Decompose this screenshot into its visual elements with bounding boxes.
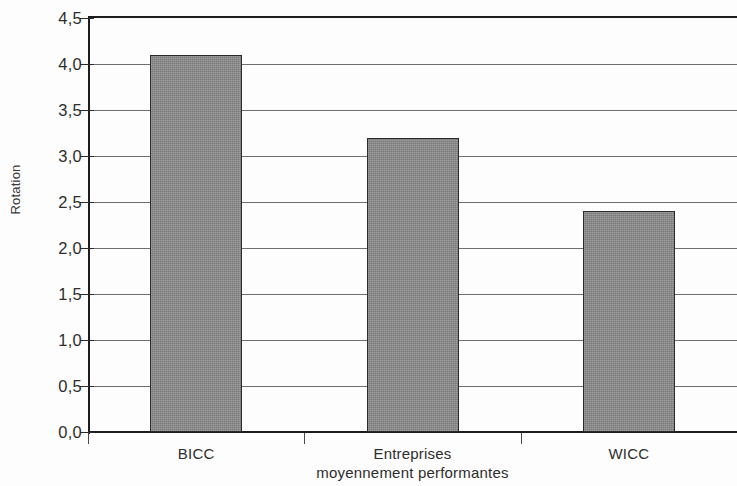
y-axis-tick-mark	[80, 156, 94, 157]
y-axis-tick-mark	[80, 294, 94, 295]
y-axis-tick-mark	[80, 64, 94, 65]
x-axis-origin-tick	[88, 433, 89, 444]
y-axis-tick-labels: 0,00,51,01,52,02,53,03,54,04,5	[0, 0, 82, 486]
y-axis-tick-label: 0,0	[36, 423, 82, 442]
x-axis-tick-label: BICC	[88, 444, 304, 463]
y-axis-tick-label: 0,5	[36, 377, 82, 396]
bar-chart: Rotation 0,00,51,01,52,02,53,03,54,04,5 …	[0, 0, 737, 486]
x-axis-tick-mark	[521, 433, 522, 444]
y-axis-tick-mark	[80, 202, 94, 203]
plot-area	[88, 18, 737, 432]
y-axis-tick-label: 4,0	[36, 55, 82, 74]
y-axis-tick-mark	[80, 248, 94, 249]
x-axis-tick-label: WICC	[521, 444, 737, 463]
y-axis-tick-label: 1,0	[36, 331, 82, 350]
y-axis-tick-label: 3,5	[36, 101, 82, 120]
y-axis-tick-label: 2,5	[36, 193, 82, 212]
x-axis-tick-mark	[304, 433, 305, 444]
y-axis-tick-mark	[80, 386, 94, 387]
y-axis-tick-mark	[80, 18, 94, 19]
y-axis-tick-mark	[80, 432, 94, 433]
y-axis-tick-mark	[80, 110, 94, 111]
bar	[367, 138, 459, 432]
y-axis-tick-label: 4,5	[36, 9, 82, 28]
y-axis-tick-label: 1,5	[36, 285, 82, 304]
y-axis-tick-mark	[80, 340, 94, 341]
y-axis-tick-label: 2,0	[36, 239, 82, 258]
bar	[150, 55, 242, 432]
bar	[583, 211, 675, 432]
x-axis-tick-label: Entreprisesmoyennement performantes	[304, 444, 520, 482]
y-axis-tick-label: 3,0	[36, 147, 82, 166]
